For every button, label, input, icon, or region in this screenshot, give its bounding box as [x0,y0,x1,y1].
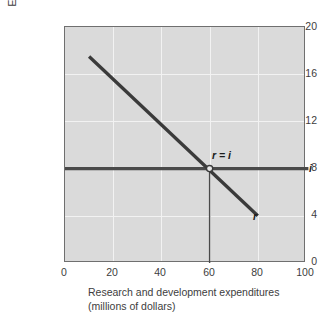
x-tick-label-20: 20 [92,267,132,278]
cropped-header-text [0,0,324,10]
series-label-i: i [309,163,312,174]
x-tick-label-40: 40 [140,267,180,278]
series-svg-layer [65,27,306,263]
x-tick-label-80: 80 [237,267,277,278]
y-axis-title: Expected rate of return, r, and interest… [6,0,36,56]
y-axis-title-part-1: Expected rate of return, [7,0,18,6]
x-tick-label-0: 0 [44,267,84,278]
figure-container: 20 16 12 8 4 0 0 20 40 60 80 100 [0,0,324,327]
expected-return-line [89,57,258,216]
series-label-r: r [253,211,257,222]
x-tick-label-100: 100 [285,267,324,278]
x-tick-label-60: 60 [189,267,229,278]
x-axis-title-line-2: (millions of dollars) [88,300,318,314]
equilibrium-annotation-label: r = i [212,150,231,161]
equilibrium-point-marker [207,166,213,172]
x-axis-title: Research and development expenditures (m… [88,286,318,313]
x-axis-title-line-1: Research and development expenditures [88,286,318,300]
plot-area [64,26,305,262]
